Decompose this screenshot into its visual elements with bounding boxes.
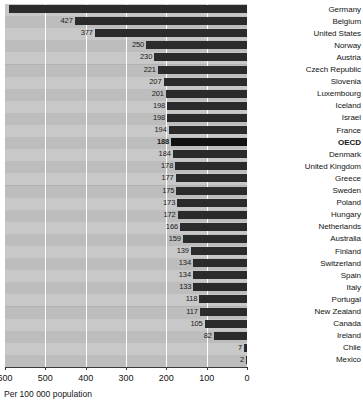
category-axis-labels: GermanyBelgiumUnited StatesNorwayAustria… — [250, 4, 362, 367]
bar-row: 2 — [5, 355, 247, 367]
axis-tick-label: 100 — [199, 372, 214, 384]
category-label: Denmark — [329, 149, 361, 160]
axis-tick-label: 300 — [118, 372, 133, 384]
category-label: Spain — [341, 270, 361, 281]
bar — [205, 320, 247, 328]
bar-value-label: 230 — [130, 51, 152, 62]
category-label: Israel — [342, 112, 361, 123]
axis-tick — [207, 367, 208, 370]
bar-value-label: 82 — [190, 330, 212, 341]
category-label: United States — [314, 28, 361, 39]
bar-value-label: 7 — [220, 342, 242, 353]
bar — [177, 199, 247, 207]
bar — [169, 126, 247, 134]
bar-value-label: 134 — [169, 257, 191, 268]
axis-tick — [5, 367, 6, 370]
bar — [9, 5, 247, 13]
bar — [146, 41, 247, 49]
category-label: Poland — [336, 197, 361, 208]
axis-tick-label: 600 — [0, 372, 13, 384]
bar — [154, 53, 247, 61]
axis-tick-label: 200 — [159, 372, 174, 384]
bar — [175, 162, 247, 170]
bar-row: 178 — [5, 161, 247, 173]
bar-row: 173 — [5, 198, 247, 210]
axis-tick-label: 500 — [38, 372, 53, 384]
bar — [75, 17, 247, 25]
bar-chart: 4273772502302212072011981981941881841781… — [0, 0, 363, 411]
bar — [167, 102, 247, 110]
bar-row: 7 — [5, 343, 247, 355]
category-label: New Zealand — [314, 306, 361, 317]
category-label: France — [336, 125, 361, 136]
bar-row: 177 — [5, 173, 247, 185]
bar-value-label: 198 — [143, 100, 165, 111]
bar — [183, 235, 247, 243]
bar-value-label: 134 — [169, 269, 191, 280]
category-label: Canada — [333, 318, 361, 329]
bar-value-label: 188 — [147, 136, 169, 147]
category-label: United Kingdom — [305, 161, 361, 172]
bar — [193, 283, 247, 291]
category-label: Finland — [335, 246, 361, 257]
bar-value-label: 177 — [152, 172, 174, 183]
x-axis-title: Per 100 000 population — [4, 388, 92, 400]
bar-value-label: 184 — [149, 148, 171, 159]
bar-row: 194 — [5, 125, 247, 137]
bar — [191, 247, 247, 255]
bar — [214, 332, 247, 340]
bar-row: 230 — [5, 52, 247, 64]
bar-value-label: 117 — [176, 306, 198, 317]
bar-row: 198 — [5, 113, 247, 125]
bar — [200, 308, 247, 316]
axis-tick — [166, 367, 167, 370]
bar-value-label: 207 — [140, 76, 162, 87]
bar — [193, 271, 247, 279]
bar-row — [5, 4, 247, 16]
bar — [176, 174, 247, 182]
category-label: Germany — [328, 4, 361, 15]
axis-tick-label: 400 — [78, 372, 93, 384]
bar-row: 198 — [5, 101, 247, 113]
bar-value-label: 194 — [145, 124, 167, 135]
bar-row: 427 — [5, 16, 247, 28]
bar-row: 118 — [5, 294, 247, 306]
category-label: Australia — [330, 233, 361, 244]
category-label: Norway — [334, 40, 361, 51]
bar-row: 221 — [5, 65, 247, 77]
bar-row: 207 — [5, 77, 247, 89]
category-label: Czech Republic — [306, 64, 361, 75]
category-label: Iceland — [336, 100, 361, 111]
bar-row: 117 — [5, 307, 247, 319]
category-label: Belgium — [332, 16, 361, 27]
bar-row: 139 — [5, 246, 247, 258]
bar-value-label: 166 — [156, 221, 178, 232]
bar-value-label: 377 — [71, 27, 93, 38]
bar — [178, 211, 247, 219]
bar-value-label: 201 — [142, 88, 164, 99]
bar-value-label: 172 — [154, 209, 176, 220]
category-label: OECD — [338, 137, 361, 148]
bar — [193, 259, 247, 267]
bar — [95, 29, 247, 37]
bar-value-label: 178 — [151, 160, 173, 171]
bar-row: 184 — [5, 149, 247, 161]
bar-value-label: 175 — [152, 185, 174, 196]
bar-row: 166 — [5, 222, 247, 234]
category-label: Chile — [343, 342, 361, 353]
bar-value-label: 2 — [222, 354, 244, 365]
bar-row: 172 — [5, 210, 247, 222]
bar-value-label: 139 — [167, 245, 189, 256]
bar — [246, 356, 247, 364]
bar — [199, 295, 247, 303]
bar-value-label: 221 — [134, 64, 156, 75]
category-label: Slovenia — [331, 76, 361, 87]
bar-value-label: 133 — [169, 281, 191, 292]
bar-row: 188 — [5, 137, 247, 149]
bar-row: 250 — [5, 40, 247, 52]
bar-value-label: 105 — [181, 318, 203, 329]
bar — [171, 138, 247, 146]
category-label: Portugal — [332, 294, 361, 305]
category-label: Hungary — [331, 209, 361, 220]
category-label: Greece — [335, 173, 361, 184]
